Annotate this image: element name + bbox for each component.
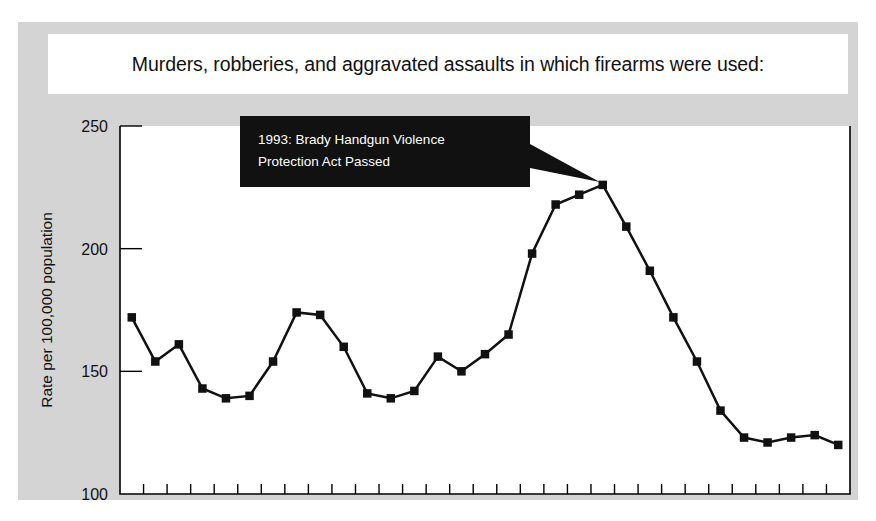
data-point-marker (834, 441, 843, 450)
page-title: Murders, robberies, and aggravated assau… (132, 53, 764, 76)
chart-title-banner: Murders, robberies, and aggravated assau… (48, 34, 848, 94)
data-point-marker (622, 222, 631, 231)
y-axis-tick-label: 150 (81, 363, 108, 380)
data-point-marker (363, 389, 372, 398)
data-point-marker (528, 249, 537, 258)
data-point-marker (269, 357, 278, 366)
callout-line-1: 1993: Brady Handgun Violence (258, 132, 445, 147)
data-point-marker (504, 330, 513, 339)
data-point-marker (410, 387, 419, 396)
data-point-marker (457, 367, 466, 376)
data-point-marker (198, 384, 207, 393)
data-point-marker (128, 313, 136, 322)
chart-figure: Murders, robberies, and aggravated assau… (18, 22, 858, 500)
data-point-marker (316, 311, 325, 320)
data-point-marker (175, 340, 184, 349)
data-point-marker (245, 392, 254, 401)
data-point-marker (598, 181, 607, 190)
y-axis-title: Rate per 100,000 population (38, 212, 55, 408)
data-point-marker (763, 438, 772, 447)
data-point-marker (716, 406, 725, 415)
plot-area-container: 100150200250Rate per 100,000 population'… (18, 94, 858, 500)
data-point-marker (222, 394, 231, 403)
y-axis-tick-label: 100 (81, 486, 108, 500)
callout-box (240, 116, 530, 187)
data-point-marker (434, 352, 443, 361)
data-point-marker (387, 394, 396, 403)
data-point-marker (575, 190, 584, 199)
data-point-marker (810, 431, 819, 440)
data-point-marker (339, 343, 348, 352)
callout-line-2: Protection Act Passed (258, 154, 390, 169)
data-point-marker (292, 308, 301, 317)
data-point-marker (481, 350, 490, 359)
data-point-marker (693, 357, 702, 366)
data-point-marker (669, 313, 678, 322)
data-point-marker (646, 267, 655, 276)
line-chart: 100150200250Rate per 100,000 population'… (18, 94, 858, 500)
data-point-marker (740, 433, 749, 442)
data-point-marker (151, 357, 160, 366)
y-axis-tick-label: 250 (81, 118, 108, 135)
data-point-marker (551, 200, 560, 209)
y-axis-tick-label: 200 (81, 241, 108, 258)
data-point-marker (787, 433, 796, 442)
